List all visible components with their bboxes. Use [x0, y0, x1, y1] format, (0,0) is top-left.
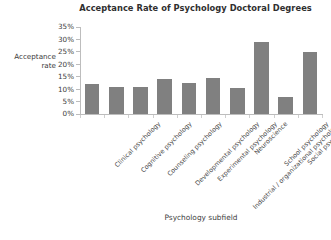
- bar: [230, 88, 245, 114]
- y-axis-tick-label-text: 15%: [52, 72, 74, 81]
- bar: [182, 83, 197, 114]
- bar: [303, 52, 318, 114]
- y-axis-tick-label: 0%: [52, 109, 74, 118]
- y-axis-tick-label-text: 5%: [52, 97, 74, 106]
- y-axis-tick: [76, 39, 80, 40]
- y-axis-tick-label-text: 20%: [52, 60, 74, 69]
- y-axis-title: Acceptance rate: [2, 52, 56, 71]
- y-axis-tick-label-text: 35%: [52, 22, 74, 31]
- bar: [85, 84, 100, 114]
- plot-area: [80, 27, 322, 114]
- bar: [278, 97, 293, 114]
- x-axis-tick: [128, 115, 129, 118]
- y-axis-tick: [76, 114, 80, 115]
- y-axis-tick-label: 35%: [52, 22, 74, 31]
- chart-title: Acceptance Rate of Psychology Doctoral D…: [60, 3, 331, 13]
- y-axis-tick-label: 25%: [52, 47, 74, 56]
- y-axis-tick: [76, 101, 80, 102]
- y-axis-tick: [76, 64, 80, 65]
- x-axis-tick: [104, 115, 105, 118]
- x-axis-tick: [298, 115, 299, 118]
- y-axis-tick-label: 30%: [52, 35, 74, 44]
- x-axis-tick: [249, 115, 250, 118]
- x-axis-tick: [153, 115, 154, 118]
- y-axis-tick-label-text: 0%: [52, 109, 74, 118]
- x-axis-tick: [225, 115, 226, 118]
- y-axis-tick: [76, 89, 80, 90]
- bar: [157, 79, 172, 114]
- x-axis-title: Psychology subfield: [80, 213, 322, 222]
- bar: [254, 42, 269, 114]
- y-axis-tick-label-text: 30%: [52, 35, 74, 44]
- bar-chart: Acceptance Rate of Psychology Doctoral D…: [0, 0, 331, 240]
- y-axis-tick-label: 10%: [52, 85, 74, 94]
- bar: [133, 87, 148, 114]
- x-axis-tick: [322, 115, 323, 118]
- y-axis-tick-label: 20%: [52, 60, 74, 69]
- y-axis-tick: [76, 27, 80, 28]
- x-axis-tick: [201, 115, 202, 118]
- y-axis-tick: [76, 76, 80, 77]
- bar: [109, 87, 124, 114]
- x-axis-tick: [177, 115, 178, 118]
- y-axis-tick: [76, 51, 80, 52]
- y-axis-tick-label-text: 10%: [52, 85, 74, 94]
- bar: [206, 78, 221, 114]
- y-axis-tick-label-text: 25%: [52, 47, 74, 56]
- x-axis-tick: [274, 115, 275, 118]
- x-axis-tick: [80, 115, 81, 118]
- y-axis-tick-label: 5%: [52, 97, 74, 106]
- y-axis-tick-label: 15%: [52, 72, 74, 81]
